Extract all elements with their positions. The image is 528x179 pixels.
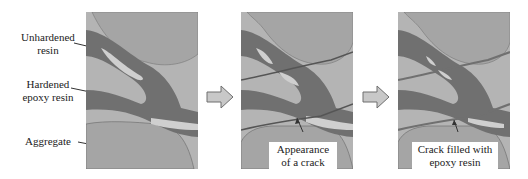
arrow-right-icon bbox=[205, 84, 235, 110]
panel-initial bbox=[86, 12, 198, 169]
arrow-right-icon bbox=[361, 84, 391, 110]
callout-line: Crack filled with bbox=[412, 143, 498, 156]
panel-filled: Crack filled with epoxy resin bbox=[398, 12, 510, 169]
panel-crack: Appearance of a crack bbox=[241, 12, 353, 169]
callout-crack-filled: Crack filled with epoxy resin bbox=[412, 142, 498, 170]
callout-line: Appearance bbox=[269, 143, 337, 156]
callout-line: of a crack bbox=[269, 156, 337, 169]
callout-appearance-of-crack: Appearance of a crack bbox=[269, 142, 337, 170]
callout-line: epoxy resin bbox=[412, 156, 498, 169]
